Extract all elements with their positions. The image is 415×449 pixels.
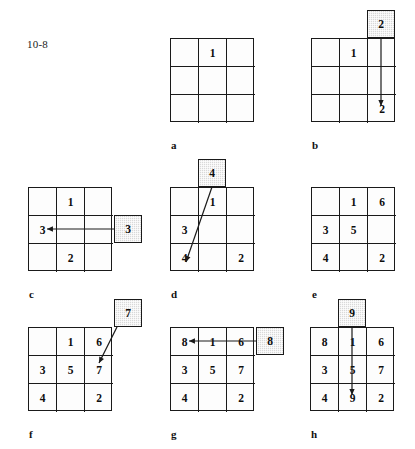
- panel-c-cell-r1c3: [85, 188, 113, 216]
- panel-d-cell-r1c2: 1: [199, 188, 227, 216]
- panel-e-cell-r2c2: 5: [340, 216, 368, 244]
- panel-g-grid: 81635742: [170, 327, 254, 411]
- panel-d-caption: d: [171, 288, 177, 300]
- panel-c-cell-r2c2: [57, 216, 85, 244]
- panel-d-cell-r2c2: [199, 216, 227, 244]
- panel-a-cell-r2c1: [171, 67, 199, 95]
- panel-a-cell-r3c3: [227, 95, 255, 123]
- panel-h-cell-r2c1: 3: [311, 356, 339, 384]
- panel-a-cell-r1c3: [227, 39, 255, 67]
- panel-g-cell-r3c1: 4: [171, 384, 199, 412]
- panel-d-staging-cell: 4: [198, 159, 226, 187]
- figure-root: 10-8 1a212b3132c41342d163542e71635742f88…: [0, 0, 415, 449]
- panel-h-cell-r1c1: 8: [311, 328, 339, 356]
- panel-a-caption: a: [171, 139, 177, 151]
- panel-c-cell-r2c3: [85, 216, 113, 244]
- panel-d-cell-r3c2: [199, 244, 227, 272]
- panel-d-cell-r1c3: [227, 188, 255, 216]
- panel-a-cell-r3c1: [171, 95, 199, 123]
- panel-f-caption: f: [29, 428, 33, 440]
- panel-d-cell-r3c3: 2: [227, 244, 255, 272]
- panel-b-cell-r3c1: [312, 95, 340, 123]
- panel-a-cell-r1c2: 1: [199, 39, 227, 67]
- panel-f-staging-cell: 7: [114, 299, 142, 327]
- panel-h-staging-cell: 9: [338, 299, 366, 327]
- panel-h-cell-r1c2: 1: [339, 328, 367, 356]
- panel-e-grid: 163542: [311, 187, 395, 271]
- panel-g-cell-r3c2: [199, 384, 227, 412]
- panel-f-cell-r1c2: 1: [57, 328, 85, 356]
- panel-b-cell-r1c2: 1: [340, 39, 368, 67]
- panel-g-cell-r1c1: 8: [171, 328, 199, 356]
- panel-a-cell-r2c3: [227, 67, 255, 95]
- panel-h-cell-r1c3: 6: [367, 328, 395, 356]
- panel-c-cell-r1c2: 1: [57, 188, 85, 216]
- panel-c-staging-value: 3: [125, 223, 131, 235]
- panel-b-cell-r1c1: [312, 39, 340, 67]
- panel-h-cell-r3c2: 9: [339, 384, 367, 412]
- panel-e-cell-r2c3: [368, 216, 396, 244]
- panel-b-cell-r3c2: [340, 95, 368, 123]
- panel-d-grid: 1342: [170, 187, 254, 271]
- panel-d-cell-r2c1: 3: [171, 216, 199, 244]
- panel-c-staging-cell: 3: [114, 215, 142, 243]
- panel-f-cell-r2c2: 5: [57, 356, 85, 384]
- panel-c-cell-r3c1: [29, 244, 57, 272]
- panel-h-cell-r2c2: 5: [339, 356, 367, 384]
- panel-h-cell-r3c3: 2: [367, 384, 395, 412]
- panel-d-staging-value: 4: [209, 167, 215, 179]
- panel-c-cell-r2c1: 3: [29, 216, 57, 244]
- panel-g-cell-r2c3: 7: [227, 356, 255, 384]
- panel-b-cell-r3c3: 2: [368, 95, 396, 123]
- panel-a-cell-r1c1: [171, 39, 199, 67]
- panel-f-cell-r1c3: 6: [85, 328, 113, 356]
- panel-h-grid: 816357492: [310, 327, 394, 411]
- panel-g-cell-r3c3: 2: [227, 384, 255, 412]
- panel-f-cell-r3c1: 4: [29, 384, 57, 412]
- panel-h-staging-value: 9: [349, 307, 355, 319]
- panel-c-caption: c: [29, 288, 34, 300]
- panel-e-cell-r1c2: 1: [340, 188, 368, 216]
- panel-g-cell-r2c2: 5: [199, 356, 227, 384]
- panel-g-staging-cell: 8: [256, 327, 284, 355]
- panel-b-staging-cell: 2: [367, 10, 395, 38]
- panel-c-cell-r3c2: 2: [57, 244, 85, 272]
- panel-a-cell-r2c2: [199, 67, 227, 95]
- panel-e-cell-r2c1: 3: [312, 216, 340, 244]
- panel-e-cell-r3c2: [340, 244, 368, 272]
- panel-e-cell-r1c3: 6: [368, 188, 396, 216]
- panel-g-cell-r2c1: 3: [171, 356, 199, 384]
- panel-f-cell-r3c3: 2: [85, 384, 113, 412]
- panel-g-cell-r1c2: 1: [199, 328, 227, 356]
- panel-f-cell-r3c2: [57, 384, 85, 412]
- panel-e-cell-r1c1: [312, 188, 340, 216]
- panel-b-grid: 12: [311, 38, 395, 122]
- panel-g-staging-value: 8: [267, 335, 273, 347]
- panel-f-cell-r2c1: 3: [29, 356, 57, 384]
- panel-f-grid: 1635742: [28, 327, 112, 411]
- panel-a-grid: 1: [170, 38, 254, 122]
- panel-b-cell-r2c2: [340, 67, 368, 95]
- panel-h-cell-r3c1: 4: [311, 384, 339, 412]
- panel-c-cell-r3c3: [85, 244, 113, 272]
- panel-h-cell-r2c3: 7: [367, 356, 395, 384]
- panel-b-cell-r2c3: [368, 67, 396, 95]
- panel-a-cell-r3c2: [199, 95, 227, 123]
- panel-b-caption: b: [312, 139, 318, 151]
- panel-e-caption: e: [312, 288, 317, 300]
- panel-g-caption: g: [171, 428, 177, 440]
- panel-d-cell-r3c1: 4: [171, 244, 199, 272]
- panel-h-caption: h: [311, 428, 317, 440]
- panel-d-cell-r2c3: [227, 216, 255, 244]
- panel-e-cell-r3c1: 4: [312, 244, 340, 272]
- panel-f-cell-r1c1: [29, 328, 57, 356]
- panel-g-cell-r1c3: 6: [227, 328, 255, 356]
- panel-b-cell-r2c1: [312, 67, 340, 95]
- panel-c-grid: 132: [28, 187, 112, 271]
- panel-f-cell-r2c3: 7: [85, 356, 113, 384]
- panel-c-cell-r1c1: [29, 188, 57, 216]
- panel-e-cell-r3c3: 2: [368, 244, 396, 272]
- panel-d-cell-r1c1: [171, 188, 199, 216]
- figure-number-label: 10-8: [27, 38, 48, 50]
- panel-f-staging-value: 7: [125, 307, 131, 319]
